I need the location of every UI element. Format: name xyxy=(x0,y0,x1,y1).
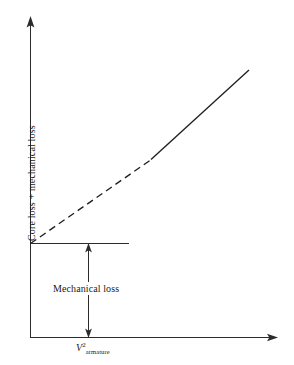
mechanical-loss-label: Mechanical loss xyxy=(50,282,122,295)
loss-curve-solid-segment xyxy=(151,70,249,160)
plot-canvas xyxy=(0,0,294,365)
x-axis-label: V2armature xyxy=(76,341,110,355)
loss-curve-dashed-segment xyxy=(31,159,153,244)
x-axis-label-subscript: armature xyxy=(86,348,110,355)
figure-root: Core loss + mechanical loss Mechanical l… xyxy=(0,0,294,365)
y-axis-label: Core loss + mechanical loss xyxy=(26,125,37,241)
